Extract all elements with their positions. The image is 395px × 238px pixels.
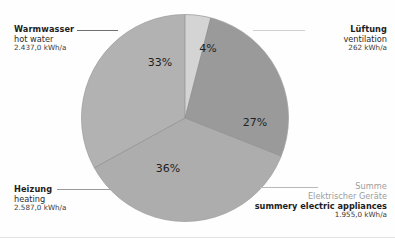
- callout-heating-value: 2.587,0 kWh/a: [14, 204, 66, 213]
- callout-hot-water-de: Warmwasser: [14, 24, 74, 34]
- callout-appliances-de-line1: Summe: [255, 181, 387, 191]
- pie-chart-figure: 33% 4% 27% 36% Warmwasser hot water 2.43…: [0, 0, 395, 238]
- callout-hot-water-value: 2.437,0 kWh/a: [14, 44, 74, 53]
- callout-appliances-de-line2: Elektrischer Geräte: [255, 191, 387, 201]
- callout-appliances-value: 1.955,0 kWh/a: [255, 211, 387, 220]
- callout-ventilation-value: 262 kWh/a: [343, 44, 387, 53]
- callout-appliances: Summe Elektrischer Geräte summery electr…: [255, 181, 387, 220]
- pie-percent-hot-water: 33%: [148, 56, 172, 69]
- pie-percent-ventilation: 4%: [199, 42, 216, 55]
- callout-hot-water: Warmwasser hot water 2.437,0 kWh/a: [14, 24, 74, 53]
- callout-heating: Heizung heating 2.587,0 kWh/a: [14, 184, 66, 213]
- pie-percent-heating: 36%: [156, 162, 180, 175]
- callout-heating-de: Heizung: [14, 184, 66, 194]
- pie-percent-appliances: 27%: [243, 116, 267, 129]
- callout-ventilation: Lüftung ventilation 262 kWh/a: [343, 24, 387, 53]
- callout-ventilation-de: Lüftung: [343, 24, 387, 34]
